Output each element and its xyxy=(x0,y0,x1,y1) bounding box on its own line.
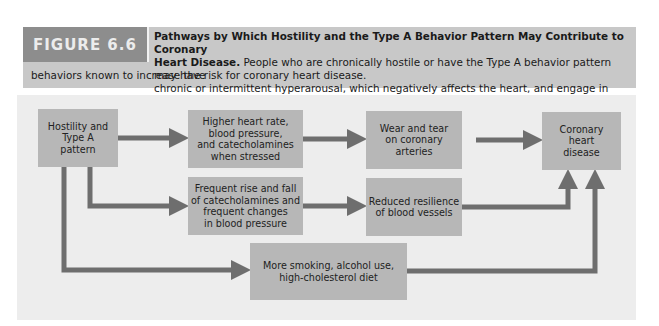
node-text: blood pressure, xyxy=(197,128,294,140)
node-text: Coronary xyxy=(560,124,604,136)
node-text: pattern xyxy=(48,144,108,156)
node-text: arteries xyxy=(380,146,448,158)
node-text: on coronary xyxy=(380,134,448,146)
node-frequent-rise-and-fall: Frequent rise and fallof catecholamines … xyxy=(188,177,303,235)
node-higher-heart-rate: Higher heart rate,blood pressure,and cat… xyxy=(188,110,303,168)
node-text: Reduced resilience xyxy=(369,196,459,208)
node-text: Frequent rise and fall xyxy=(191,183,300,195)
node-text: frequent changes xyxy=(191,206,300,218)
node-text: disease xyxy=(560,147,604,159)
node-wear-and-tear: Wear and tearon coronaryarteries xyxy=(366,111,462,169)
node-text: Type A xyxy=(48,132,108,144)
node-text: Higher heart rate, xyxy=(197,116,294,128)
arrow-source-to-frequent xyxy=(90,167,180,206)
node-text: Hostility and xyxy=(48,121,108,133)
node-hostility-type-a: Hostility andType Apattern xyxy=(38,109,118,167)
node-text: and catecholamines xyxy=(197,139,294,151)
node-text: when stressed xyxy=(197,151,294,163)
node-more-smoking: More smoking, alcohol use,high-cholester… xyxy=(250,243,407,300)
node-text: of blood vessels xyxy=(369,207,459,219)
node-text: of catecholamines and xyxy=(191,195,300,207)
arrow-reduced-to-chd xyxy=(462,178,568,207)
node-text: Wear and tear xyxy=(380,123,448,135)
node-reduced-resilience: Reduced resilienceof blood vessels xyxy=(366,178,462,236)
node-text: More smoking, alcohol use, xyxy=(263,260,394,272)
node-text: in blood pressure xyxy=(191,218,300,230)
node-text: heart xyxy=(560,135,604,147)
node-text: high-cholesterol diet xyxy=(263,272,394,284)
node-coronary-heart-disease: Coronaryheartdisease xyxy=(542,112,621,170)
